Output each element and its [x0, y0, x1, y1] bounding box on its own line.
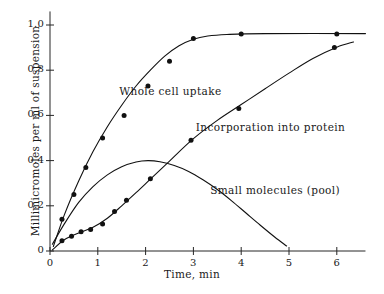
- data-point-marker: [59, 238, 64, 243]
- data-point-marker: [100, 136, 105, 141]
- data-point-marker: [334, 32, 339, 37]
- y-tick-label: 0.8: [10, 63, 44, 74]
- x-tick-label: 2: [136, 257, 156, 268]
- series-1: [52, 42, 353, 250]
- data-point-marker: [191, 36, 196, 41]
- y-tick-label: 0: [10, 244, 44, 255]
- x-tick-label: 1: [88, 257, 108, 268]
- data-point-marker: [122, 113, 127, 118]
- series-curve: [52, 42, 353, 250]
- series-0: [53, 32, 365, 247]
- y-axis-label: Millimicromoles per ml of suspension: [29, 6, 41, 256]
- y-tick-label: 0.2: [10, 199, 44, 210]
- x-tick-label: 5: [279, 257, 299, 268]
- series-annotation-small-molecules-pool: Small molecules (pool): [210, 184, 340, 196]
- series-annotation-whole-cell-uptake: Whole cell uptake: [119, 85, 221, 97]
- data-point-marker: [100, 221, 105, 226]
- data-point-marker: [79, 229, 84, 234]
- axes-group: [46, 11, 365, 255]
- data-point-marker: [236, 106, 241, 111]
- series-curve: [52, 161, 286, 246]
- x-tick-label: 0: [40, 257, 60, 268]
- data-point-marker: [239, 32, 244, 37]
- series-2: [52, 161, 286, 246]
- data-point-marker: [59, 217, 64, 222]
- x-tick-label: 6: [327, 257, 347, 268]
- x-tick-label: 3: [183, 257, 203, 268]
- series-curve: [53, 34, 365, 247]
- data-point-marker: [112, 209, 117, 214]
- y-tick-label: 0.6: [10, 108, 44, 119]
- data-point-marker: [88, 227, 93, 232]
- data-point-marker: [148, 176, 153, 181]
- y-tick-label: 1.0: [10, 18, 44, 29]
- data-point-marker: [189, 138, 194, 143]
- data-point-marker: [69, 234, 74, 239]
- y-tick-label: 0.4: [10, 154, 44, 165]
- data-point-marker: [332, 45, 337, 50]
- data-point-marker: [71, 192, 76, 197]
- x-tick-label: 4: [231, 257, 251, 268]
- series-group: [52, 32, 365, 250]
- plot-canvas: [0, 0, 384, 294]
- data-point-marker: [167, 59, 172, 64]
- data-point-marker: [83, 165, 88, 170]
- series-annotation-incorporation-into-protein: Incorporation into protein: [196, 121, 345, 133]
- data-point-marker: [124, 198, 129, 203]
- figure-container: Millimicromoles per ml of suspension Tim…: [0, 0, 384, 294]
- x-axis-label: Time, min: [0, 268, 384, 280]
